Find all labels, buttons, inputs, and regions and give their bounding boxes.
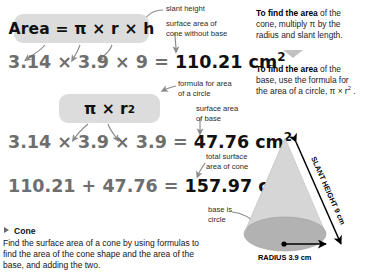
lateral-equation-left: 3.14 × 3.9 × 9 = [8,52,175,72]
triangle-down-icon [283,50,303,58]
annotation-lateral-area: surface area of cone without base [166,19,227,38]
base-equation-left: 3.14 × 3.9 × 3.9 = [8,132,194,152]
annotation-slant-height: slant height [166,4,205,14]
instruction-lateral-bold: To find the area [256,8,318,18]
instruction-paragraph-lateral: To find the area of the cone, multiply π… [256,8,360,42]
base-area-formula-text: π × r [84,100,128,118]
annotation-base-area: surface area of base [196,104,238,123]
lateral-area-formula-box: Area = π × r × h [14,14,149,43]
instruction-paragraph-base: To find the area of the base, use the fo… [256,64,356,98]
base-area-formula-box: π × r2 [59,94,160,123]
instruction-base-end: . [351,86,356,96]
instruction-base-bold: To find the area [256,64,318,74]
page-root: Area = π × r × h 3.14 × 3.9 × 9 = 110.21… [0,0,365,272]
lateral-area-equation: 3.14 × 3.9 × 9 = 110.21 cm2 [8,52,285,72]
annotation-base-is-circle: base is circle [208,205,232,224]
triangle-right-icon [4,227,9,233]
annotation-circle-formula: formula for area of a circle [178,79,232,98]
section-title: Cone [14,226,35,236]
cone-diagram: SLANT HEIGHT 9 cm RADIUS 3.9 cm [240,130,365,272]
section-body-text: Find the surface area of a cone by using… [3,238,208,271]
radius-label: RADIUS 3.9 cm [258,253,312,262]
lateral-area-formula-text: Area = π × r × h [8,20,154,38]
total-equation-left: 110.21 + 47.76 = [8,176,185,196]
